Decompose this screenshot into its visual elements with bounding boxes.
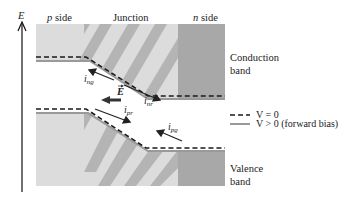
inr-sub: nr [147, 100, 153, 108]
valence-band-label-line2: band [230, 176, 250, 188]
energy-axis [18, 22, 26, 192]
legend-forward-bias-text: V > 0 (forward bias) [256, 118, 338, 129]
current-ipr-label: ipr [124, 104, 133, 117]
n-side-text: side [198, 12, 218, 23]
legend-forward-bias: V > 0 (forward bias) [256, 118, 338, 130]
band-diagram-svg [0, 0, 362, 201]
n-side-label: n side [193, 12, 218, 24]
current-ipg-label: ipg [168, 121, 178, 134]
p-side-text: side [52, 12, 72, 23]
current-inr-label: inr [144, 95, 153, 108]
p-side-label: p side [47, 12, 72, 24]
legend-symbols [230, 115, 250, 124]
valence-band-region [36, 112, 225, 186]
pn-junction-diagram: E p side Junction n side Conduction band… [0, 0, 362, 201]
electric-field-label: E [117, 86, 124, 98]
conduction-band-label-line2: band [230, 65, 250, 77]
ing-sub: ng [87, 78, 94, 86]
ipg-sub: pg [171, 126, 178, 134]
energy-axis-label: E [18, 10, 24, 22]
junction-label: Junction [113, 12, 149, 24]
current-ing-label: ing [84, 73, 94, 86]
ipr-sub: pr [127, 109, 133, 117]
conduction-band-label-line1: Conduction [230, 52, 279, 64]
valence-band-label-line1: Valence [230, 163, 263, 175]
